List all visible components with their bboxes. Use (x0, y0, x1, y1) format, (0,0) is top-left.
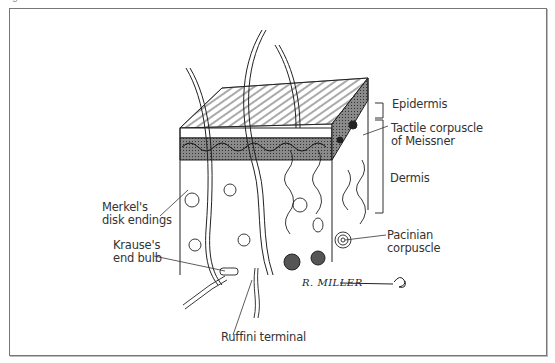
artist-signature: R. MILLER (302, 277, 363, 288)
gland-clusters (284, 251, 325, 270)
label-ruffini: Ruffini terminal (221, 331, 306, 344)
krause-end-bulb (220, 268, 238, 275)
skin-cross-section-illustration (0, 0, 555, 363)
layer-brackets (375, 103, 383, 213)
label-epidermis: Epidermis (392, 98, 447, 111)
label-dermis: Dermis (390, 172, 430, 185)
label-pacinian-line2: corpuscle (387, 242, 440, 255)
skin-block-front (180, 124, 332, 275)
label-krause-line2: end bulb (113, 252, 162, 265)
label-meissner-line2: of Meissner (391, 135, 455, 148)
label-merkel-line2: disk endings (102, 214, 172, 227)
nerve-fibers (183, 268, 259, 318)
pacinian-corpuscle (335, 232, 351, 248)
